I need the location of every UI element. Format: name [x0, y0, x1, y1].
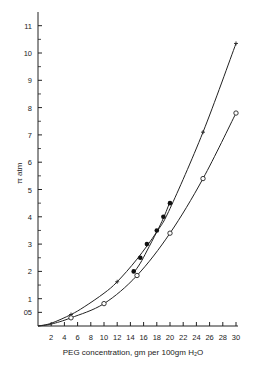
x-tick-label: 22 — [179, 333, 187, 342]
data-point — [138, 255, 143, 260]
y-tick-label: 7 — [28, 131, 32, 140]
data-point — [145, 242, 150, 247]
data-point — [135, 273, 139, 277]
y-tick-label: 3 — [28, 240, 32, 249]
y-tick-label: 1 — [28, 295, 32, 304]
data-point — [161, 215, 166, 220]
x-axis-title: PEG concentration, gm per 100gm H₂O — [63, 348, 204, 357]
y-tick-label: 6 — [28, 158, 32, 167]
x-ticks: 24681012141618202224262830 — [49, 322, 240, 342]
x-tick-label: 18 — [153, 333, 161, 342]
x-tick-label: 4 — [62, 333, 66, 342]
y-tick-label: 5 — [28, 186, 32, 195]
data-point — [201, 130, 205, 134]
data-point — [69, 316, 73, 320]
series-line — [38, 43, 236, 326]
data-point — [201, 176, 205, 180]
x-tick-label: 12 — [113, 333, 121, 342]
x-tick-label: 30 — [232, 333, 240, 342]
x-tick-label: 16 — [139, 333, 147, 342]
y-tick-label: 05 — [24, 308, 32, 317]
data-point — [168, 201, 173, 206]
data-point — [168, 231, 172, 235]
x-tick-label: 14 — [126, 333, 134, 342]
chart: 24681012141618202224262830 0512345678910… — [0, 0, 257, 371]
data-point — [131, 269, 136, 274]
x-tick-label: 26 — [205, 333, 213, 342]
y-tick-label: 2 — [28, 267, 32, 276]
data-point — [155, 228, 160, 233]
x-tick-label: 6 — [76, 333, 80, 342]
y-tick-label: 9 — [28, 76, 32, 85]
y-tick-label: 11 — [24, 22, 32, 31]
x-tick-label: 10 — [100, 333, 108, 342]
x-tick-label: 28 — [219, 333, 227, 342]
y-axis-title: π atm — [15, 162, 24, 183]
y-tick-label: 8 — [28, 104, 32, 113]
series-filled-circle — [131, 201, 172, 274]
series-line — [38, 113, 236, 326]
data-point — [102, 301, 106, 305]
y-tick-label: 4 — [28, 213, 32, 222]
series-layer — [38, 41, 238, 326]
data-point — [234, 41, 238, 45]
y-ticks: 051234567891011 — [24, 22, 42, 318]
series-line — [134, 202, 170, 273]
x-tick-label: 24 — [192, 333, 200, 342]
x-tick-label: 20 — [166, 333, 174, 342]
x-tick-label: 8 — [89, 333, 93, 342]
x-tick-label: 2 — [49, 333, 53, 342]
data-point — [234, 111, 238, 115]
series-open-circle — [38, 111, 238, 326]
y-tick-label: 10 — [24, 49, 32, 58]
series-cross — [38, 41, 238, 326]
